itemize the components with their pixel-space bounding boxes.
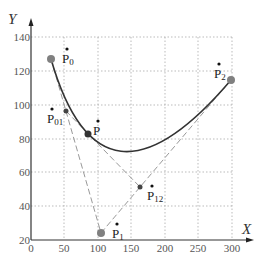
y-axis-label: Y: [8, 11, 18, 27]
label-dots: [50, 47, 220, 225]
point-p01: [64, 109, 69, 114]
grid: [31, 37, 232, 240]
y-tick: 120: [14, 65, 31, 77]
y-tick: 40: [19, 200, 31, 212]
y-axis-arrow-icon: [29, 18, 34, 26]
x-tick: 300: [224, 242, 241, 254]
x-tick-labels: 0 50 100 150 200 250 300: [28, 242, 241, 254]
x-tick: 150: [123, 242, 140, 254]
x-tick: 200: [157, 242, 174, 254]
point-p12: [138, 185, 143, 190]
y-tick-labels: 20 40 60 80 100 120 140: [14, 31, 31, 246]
y-tick: 60: [19, 166, 31, 178]
label-p2: P2: [214, 66, 226, 82]
control-polygon: [51, 59, 231, 233]
x-tick: 50: [59, 242, 71, 254]
p0-p1-line: [51, 59, 101, 233]
label-p: P: [93, 123, 100, 138]
label-p12: P12: [147, 188, 163, 204]
diagram-canvas: Y X 20 40 60 80 100 120 140 0 50 100 150…: [0, 0, 267, 268]
y-tick: 140: [14, 31, 31, 43]
p1-p2-line: [101, 80, 231, 233]
x-tick: 100: [90, 242, 107, 254]
point-p: [85, 131, 92, 138]
label-p1: P1: [112, 226, 124, 242]
x-axis-arrow-icon: [246, 238, 254, 243]
y-tick: 80: [19, 133, 31, 145]
control-point-p0: [47, 55, 55, 63]
x-tick: 250: [190, 242, 207, 254]
bezier-diagram: Y X 20 40 60 80 100 120 140 0 50 100 150…: [0, 0, 267, 268]
x-axis-label: X: [241, 221, 252, 237]
label-p01: P01: [47, 111, 63, 127]
control-point-p1: [97, 229, 105, 237]
y-tick: 100: [14, 99, 31, 111]
x-tick: 0: [28, 242, 34, 254]
control-point-p2: [227, 76, 235, 84]
label-p0: P0: [62, 51, 74, 67]
